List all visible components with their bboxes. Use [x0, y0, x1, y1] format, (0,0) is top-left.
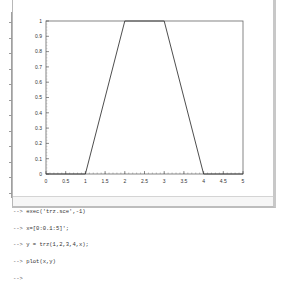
plot-area[interactable]: 00.511.522.533.544.5500.10.20.30.40.50.6… [0, 0, 294, 210]
x-tick-label: 3.5 [180, 178, 187, 184]
y-tick-label: 0.4 [35, 110, 42, 116]
y-tick-label: 0.5 [35, 94, 42, 100]
y-tick-label: 0.6 [35, 79, 42, 85]
series-line [46, 21, 243, 174]
y-tick-label: 0.7 [35, 64, 42, 70]
console-line: --> x=[0:0.1:5]'; [13, 223, 283, 240]
y-tick-label: 0.9 [35, 33, 42, 39]
y-tick-label: 1 [39, 18, 42, 24]
x-tick-label: 5 [242, 178, 245, 184]
console-line: --> y = trz(1,2,3,4,x); [13, 239, 283, 256]
x-tick-label: 1 [84, 178, 87, 184]
console-input-line[interactable]: --> [13, 273, 283, 290]
x-tick-label: 0.5 [62, 178, 69, 184]
y-tick-label: 0.8 [35, 48, 42, 54]
console-line: --> plot(x,y) [13, 256, 283, 273]
axes: 00.511.522.533.544.5500.10.20.30.40.50.6… [35, 18, 245, 184]
console-line: --> exec('trz.sce',-1) [13, 206, 283, 223]
prompt: --> [13, 208, 23, 215]
x-tick-label: 1.5 [102, 178, 109, 184]
y-tick-label: 0.2 [35, 140, 42, 146]
x-tick-label: 2 [123, 178, 126, 184]
console[interactable]: --> exec('trz.sce',-1) --> x=[0:0.1:5]';… [13, 206, 283, 289]
x-tick-label: 4 [202, 178, 205, 184]
x-tick-label: 4.5 [220, 178, 227, 184]
command-text: x=[0:0.1:5]'; [23, 225, 69, 232]
command-text: exec('trz.sce',-1) [23, 208, 86, 215]
prompt: --> [13, 258, 23, 265]
prompt: --> [13, 225, 23, 232]
y-tick-label: 0.3 [35, 125, 42, 131]
x-tick-label: 2.5 [141, 178, 148, 184]
x-tick-label: 3 [163, 178, 166, 184]
command-text: plot(x,y) [23, 258, 56, 265]
prompt: --> [13, 275, 23, 282]
prompt: --> [13, 241, 23, 248]
y-tick-label: 0.1 [35, 156, 42, 162]
x-tick-label: 0 [45, 178, 48, 184]
command-text: y = trz(1,2,3,4,x); [23, 241, 89, 248]
y-tick-label: 0 [39, 171, 42, 177]
